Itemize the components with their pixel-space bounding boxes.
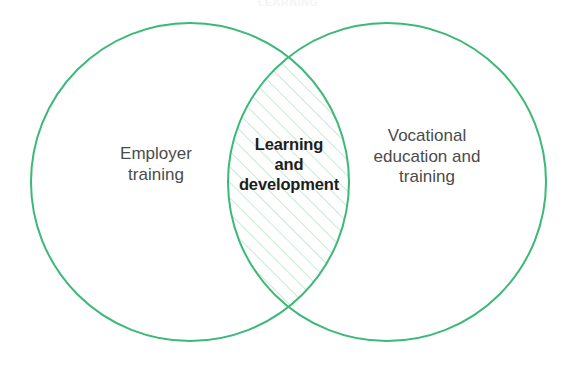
venn-diagram: LEARNING Employer training Learning and … bbox=[0, 0, 576, 366]
label-vocational-education-and-training: Vocational education and training bbox=[352, 126, 502, 188]
label-learning-and-development: Learning and development bbox=[224, 134, 354, 194]
label-employer-training: Employer training bbox=[86, 144, 226, 185]
